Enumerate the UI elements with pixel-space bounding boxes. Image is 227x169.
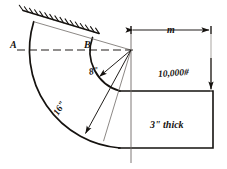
- radial-construction-lines: [34, 22, 131, 142]
- label-thickness: 3" thick: [150, 120, 184, 130]
- label-point-a: A: [10, 40, 17, 50]
- dimension-m: [131, 26, 211, 92]
- engineering-diagram-figure: A B 8" 16" m 10,000# 3" thick: [0, 0, 227, 169]
- diagram-canvas: [0, 0, 227, 169]
- label-point-b: B: [84, 40, 91, 50]
- inner-radius-dimension: [100, 50, 132, 77]
- label-dimension-m: m: [167, 25, 175, 35]
